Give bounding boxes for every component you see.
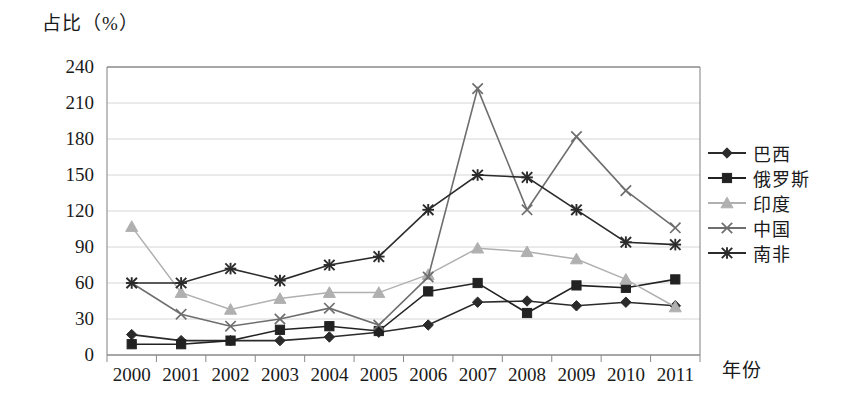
x-tick-label: 2000 — [113, 364, 151, 386]
y-tick-label: 120 — [48, 200, 94, 222]
x-tick-label: 2010 — [607, 364, 645, 386]
data-point-marker — [473, 278, 482, 287]
data-point-marker — [423, 320, 433, 330]
legend-marker-star-icon — [706, 243, 748, 263]
legend-marker-square-icon — [706, 168, 748, 188]
x-tick-label: 2003 — [261, 364, 299, 386]
y-tick-label: 60 — [48, 272, 94, 294]
legend-label: 俄罗斯 — [753, 165, 810, 191]
y-tick-label: 180 — [48, 128, 94, 150]
series-1 — [127, 275, 680, 349]
data-point-marker — [722, 147, 732, 157]
x-tick-label: 2011 — [657, 364, 694, 386]
legend-label: 印度 — [753, 190, 791, 216]
data-point-marker — [127, 329, 137, 339]
data-point-marker — [472, 297, 482, 307]
series-3 — [127, 83, 681, 331]
data-point-marker — [325, 322, 334, 331]
y-tick-label: 240 — [48, 56, 94, 78]
legend-label: 巴西 — [753, 140, 791, 166]
data-point-marker — [671, 275, 680, 284]
data-point-marker — [571, 301, 581, 311]
x-tick-label: 2001 — [162, 364, 200, 386]
y-tick-label: 90 — [48, 236, 94, 258]
data-point-marker — [226, 336, 235, 345]
chart-figure: 占比（%） 年份 0306090120150180210240 20002001… — [0, 0, 868, 420]
x-tick-label: 2005 — [360, 364, 398, 386]
y-tick-label: 210 — [48, 92, 94, 114]
data-point-marker — [424, 287, 433, 296]
data-point-marker — [275, 335, 285, 345]
series-line — [132, 89, 676, 327]
series-line — [132, 279, 676, 344]
legend-item[interactable]: 巴西 — [706, 140, 810, 165]
data-point-marker — [127, 340, 136, 349]
data-point-marker — [324, 332, 334, 342]
series-4 — [126, 169, 681, 289]
x-tick-label: 2002 — [212, 364, 250, 386]
data-point-marker — [572, 281, 581, 290]
data-point-marker — [177, 340, 186, 349]
x-tick-label: 2009 — [557, 364, 595, 386]
legend-item[interactable]: 俄罗斯 — [706, 165, 810, 190]
data-point-marker — [522, 308, 531, 317]
legend-label: 南非 — [753, 240, 791, 266]
y-tick-label: 150 — [48, 164, 94, 186]
legend-marker-diamond-icon — [706, 143, 748, 163]
y-tick-label: 0 — [48, 344, 94, 366]
x-tick-label: 2006 — [409, 364, 447, 386]
data-point-marker — [472, 242, 484, 253]
legend-item[interactable]: 南非 — [706, 240, 810, 265]
legend-item[interactable]: 印度 — [706, 190, 810, 215]
series-line — [132, 227, 676, 310]
legend-marker-triangle-icon — [706, 193, 748, 213]
chart-legend: 巴西俄罗斯印度中国南非 — [706, 140, 810, 265]
data-point-marker — [621, 297, 631, 307]
x-tick-label: 2004 — [310, 364, 348, 386]
x-tick-label: 2007 — [459, 364, 497, 386]
data-point-marker — [126, 221, 138, 232]
y-tick-label: 30 — [48, 308, 94, 330]
data-point-marker — [522, 296, 532, 306]
series-line — [132, 301, 676, 341]
legend-marker-x-icon — [706, 218, 748, 238]
data-point-marker — [275, 325, 284, 334]
x-tick-label: 2008 — [508, 364, 546, 386]
legend-item[interactable]: 中国 — [706, 215, 810, 240]
legend-label: 中国 — [753, 215, 791, 241]
data-point-marker — [722, 173, 731, 182]
data-point-marker — [620, 274, 632, 285]
